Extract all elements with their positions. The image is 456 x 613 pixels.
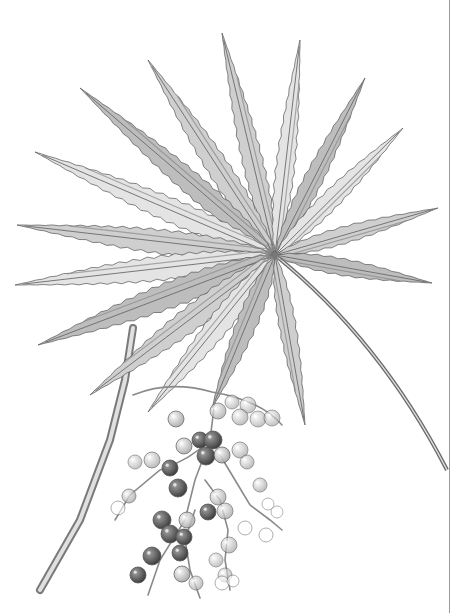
berry: [209, 553, 223, 567]
berry: [225, 395, 239, 409]
berry: [264, 410, 280, 426]
berry: [253, 478, 267, 492]
berry: [176, 438, 192, 454]
berry: [210, 403, 226, 419]
berry: [111, 501, 125, 515]
berry: [168, 411, 184, 427]
berry: [179, 512, 195, 528]
leaflet: [271, 255, 305, 425]
berry: [130, 567, 146, 583]
berry: [200, 504, 216, 520]
berry: [238, 521, 252, 535]
frame-edge-line: [449, 0, 450, 613]
berry: [172, 545, 188, 561]
illustration-canvas: [0, 0, 456, 613]
berry: [162, 460, 178, 476]
berry: [122, 489, 136, 503]
berry: [215, 576, 229, 590]
berry: [143, 547, 161, 565]
berry: [250, 411, 266, 427]
berry: [217, 503, 233, 519]
berry: [221, 537, 237, 553]
berry: [271, 506, 283, 518]
palm-illustration: [0, 0, 456, 613]
berry-cluster: [111, 395, 283, 590]
berry: [169, 479, 187, 497]
berry: [128, 455, 142, 469]
berry: [204, 431, 222, 449]
berry: [227, 575, 239, 587]
leaflet: [274, 253, 432, 283]
berry: [232, 409, 248, 425]
fan-leaf: [15, 33, 438, 425]
berry: [240, 455, 254, 469]
berry: [189, 576, 203, 590]
berry: [174, 566, 190, 582]
berry: [144, 452, 160, 468]
berry: [214, 447, 230, 463]
berry: [176, 529, 192, 545]
berry: [197, 447, 215, 465]
berry: [210, 489, 226, 505]
berry: [259, 528, 273, 542]
